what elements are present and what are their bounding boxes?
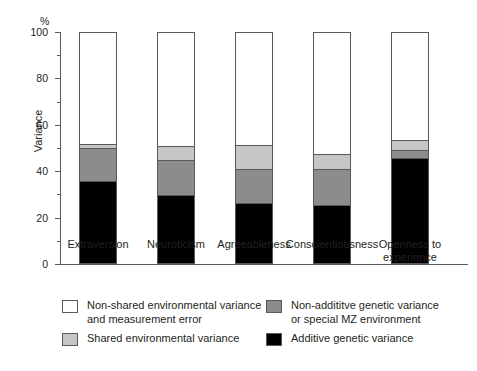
x-label-line2: experience [358,251,462,264]
segment-divider [314,169,350,170]
x-axis-line [60,264,468,265]
legend-label-line2: or special MZ environment [291,313,421,325]
legend-label: Non-shared environmental variance and me… [87,299,261,326]
y-tick-minor-90 [57,55,60,56]
segment-nonshared-environmental [314,33,350,155]
legend-item-shared-environmental: Shared environmental variance [62,332,272,346]
bar-extraversion [79,32,117,264]
segment-divider [236,169,272,170]
segment-divider [80,148,116,149]
segment-nonshared-environmental [236,33,272,146]
segment-divider [80,181,116,182]
y-tick-0 [55,264,60,265]
y-tick-40 [55,171,60,172]
segment-nonadditive-genetic [158,161,194,196]
y-tick-label-80: 80 [22,73,48,83]
y-tick-minor-50 [57,148,60,149]
bar-conscientiousness [313,32,351,264]
segment-nonshared-environmental [158,33,194,147]
legend-label-line1: Non-addititve genetic variance [291,299,439,311]
y-tick-minor-70 [57,102,60,103]
segment-divider [80,144,116,145]
segment-additive-genetic [236,204,272,263]
y-tick-label-100: 100 [22,27,48,37]
chart-legend: Non-shared environmental variance and me… [62,299,462,357]
bar-agreeableness [235,32,273,264]
y-tick-label-0: 0 [22,259,48,269]
segment-divider [158,146,194,147]
segment-nonshared-environmental [80,33,116,145]
segment-divider [236,145,272,146]
bar-neuroticism [157,32,195,264]
legend-column-left: Non-shared environmental variance and me… [62,299,272,352]
legend-label-line1: Shared environmental variance [87,332,239,344]
y-tick-100 [55,32,60,33]
segment-nonadditive-genetic [80,149,116,182]
legend-item-nonadditive-genetic: Non-addititve genetic variance or specia… [266,299,466,326]
segment-divider [392,150,428,151]
segment-divider [392,140,428,141]
x-label-line1: Openness to [358,238,462,251]
stacked-bar-chart-figure: % 100 80 60 40 20 0 Variance [0,0,477,371]
segment-additive-genetic [314,206,350,263]
y-axis-line [60,32,61,264]
legend-swatch-light-gray-icon [62,333,78,346]
y-tick-minor-30 [57,194,60,195]
legend-swatch-white-icon [62,300,78,313]
legend-item-nonshared-environmental: Non-shared environmental variance and me… [62,299,272,326]
legend-item-additive-genetic: Additive genetic variance [266,332,466,346]
legend-label-line2: and measurement error [87,313,202,325]
legend-column-right: Non-addititve genetic variance or specia… [266,299,466,352]
segment-nonadditive-genetic [314,170,350,206]
segment-divider [236,203,272,204]
legend-label: Additive genetic variance [291,332,413,346]
y-tick-20 [55,218,60,219]
segment-additive-genetic [158,196,194,263]
y-tick-80 [55,78,60,79]
y-axis-title: Variance [32,86,44,176]
segment-shared-environmental [236,146,272,170]
segment-divider [392,158,428,159]
segment-nonadditive-genetic [236,170,272,204]
segment-divider [314,205,350,206]
bar-openness-to-experience [391,32,429,264]
legend-swatch-black-icon [266,333,282,346]
legend-label-line1: Additive genetic variance [291,332,413,344]
legend-swatch-dark-gray-icon [266,300,282,313]
segment-divider [158,160,194,161]
y-tick-60 [55,125,60,126]
y-tick-label-20: 20 [22,213,48,223]
legend-label-line1: Non-shared environmental variance [87,299,261,311]
legend-label: Non-addititve genetic variance or specia… [291,299,439,326]
segment-shared-environmental [314,155,350,170]
x-axis-label-openness-to-experience: Openness to experience [358,238,462,264]
segment-nonshared-environmental [392,33,428,141]
segment-divider [314,154,350,155]
segment-divider [158,195,194,196]
segment-shared-environmental [158,147,194,161]
legend-label: Shared environmental variance [87,332,239,346]
